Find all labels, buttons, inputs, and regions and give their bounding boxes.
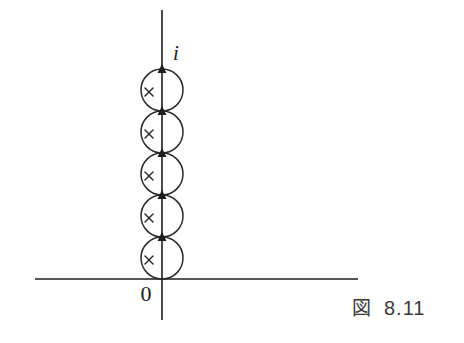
- origin-label: 0: [141, 281, 152, 306]
- cross-mark-2: [145, 130, 153, 138]
- cross-mark-5: [145, 256, 153, 264]
- figure-caption-number: 8.11: [384, 298, 425, 318]
- figure-caption-symbol: 図: [352, 299, 371, 318]
- cross-mark-3: [145, 172, 153, 180]
- imaginary-axis-label: i: [173, 41, 179, 65]
- figure-canvas: i 0 図 8.11: [0, 0, 464, 343]
- cross-mark-1: [145, 88, 153, 96]
- figure-drawing: i 0: [0, 0, 464, 343]
- figure-caption: 図 8.11: [352, 298, 425, 318]
- cross-mark-4: [145, 214, 153, 222]
